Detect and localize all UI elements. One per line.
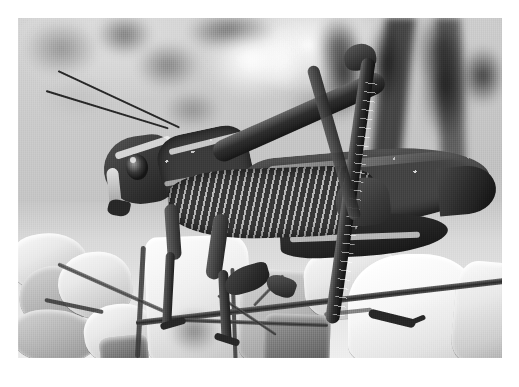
photograph [18, 18, 502, 358]
page-canvas [0, 0, 519, 387]
page-bottom-margin [0, 358, 519, 387]
photo-vignette [18, 18, 502, 358]
